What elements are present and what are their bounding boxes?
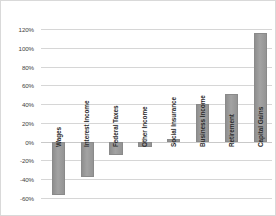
gridline bbox=[41, 160, 272, 161]
category-label: Federal Taxes bbox=[112, 105, 119, 147]
category-label: Retirement bbox=[228, 114, 235, 147]
zero-baseline bbox=[41, 142, 272, 143]
category-label: Social Insurance bbox=[170, 97, 177, 147]
y-axis-tick-label: 120% bbox=[0, 26, 34, 33]
category-label: Capital Gains bbox=[257, 106, 264, 146]
gridline bbox=[41, 179, 272, 180]
bar-chart: 120%100%80%60%40%20%0%-20%-40%-60%WagesI… bbox=[0, 0, 276, 216]
y-axis-tick-label: -60% bbox=[0, 195, 34, 202]
category-label: Wages bbox=[55, 127, 62, 147]
category-label: Business Income bbox=[199, 95, 206, 147]
bar bbox=[81, 142, 94, 178]
category-label: Interest Income bbox=[83, 100, 90, 146]
gridline bbox=[41, 67, 272, 68]
gridline bbox=[41, 198, 272, 199]
gridline bbox=[41, 29, 272, 30]
gridline bbox=[41, 85, 272, 86]
y-axis-tick-label: -20% bbox=[0, 157, 34, 164]
y-axis-tick-label: 60% bbox=[0, 82, 34, 89]
y-axis-tick-label: 40% bbox=[0, 101, 34, 108]
y-axis-tick-label: 100% bbox=[0, 44, 34, 51]
category-label: Other Income bbox=[141, 106, 148, 147]
y-axis-tick-label: 20% bbox=[0, 119, 34, 126]
y-axis-tick-label: 0% bbox=[0, 138, 34, 145]
y-axis-tick-label: 80% bbox=[0, 63, 34, 70]
y-axis-tick-label: -40% bbox=[0, 176, 34, 183]
plot-area: 120%100%80%60%40%20%0%-20%-40%-60%WagesI… bbox=[41, 29, 272, 198]
bar bbox=[52, 142, 65, 196]
gridline bbox=[41, 48, 272, 49]
